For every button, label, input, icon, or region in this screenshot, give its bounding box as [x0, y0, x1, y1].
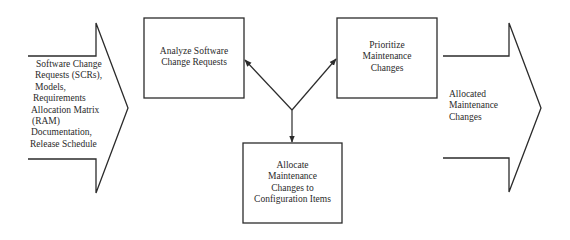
analyze-line: Change Requests [144, 57, 244, 68]
prioritize-line: Prioritize [337, 40, 437, 51]
allocate-line: Changes to [243, 183, 342, 194]
prioritize-label: Prioritize Maintenance Changes [337, 40, 437, 74]
output-label: Allocated Maintenance Changes [449, 89, 519, 123]
arrow-to-prioritize [292, 59, 336, 110]
analyze-line: Analyze Software [144, 46, 244, 57]
arrow-to-analyze [245, 60, 292, 110]
prioritize-line: Changes [337, 63, 437, 74]
allocate-label: Allocate Maintenance Changes to Configur… [243, 160, 342, 206]
output-line: Maintenance [449, 100, 519, 111]
input-label: Software Change Requests (SCRs), Models,… [30, 59, 96, 150]
allocate-line: Maintenance [243, 171, 342, 182]
input-line: (RAM) [30, 116, 96, 127]
analyze-label: Analyze Software Change Requests [144, 46, 244, 69]
input-line: Documentation, [30, 127, 96, 138]
allocate-line: Configuration Items [243, 194, 342, 205]
input-line: Software Change [30, 59, 96, 70]
input-line: Requirements [30, 93, 96, 104]
input-line: Release Schedule [30, 139, 96, 150]
input-line: Requests (SCRs), [30, 70, 96, 81]
output-line: Changes [449, 112, 519, 123]
output-line: Allocated [449, 89, 519, 100]
input-line: Allocation Matrix [30, 105, 96, 116]
input-line: Models, [30, 82, 96, 93]
prioritize-line: Maintenance [337, 51, 437, 62]
allocate-line: Allocate [243, 160, 342, 171]
